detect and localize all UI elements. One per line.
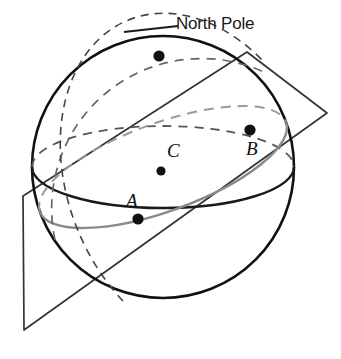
point-north-pole — [153, 50, 164, 61]
meridian-back-dashed — [52, 59, 268, 240]
diagram-canvas — [0, 0, 341, 359]
point-b-label: B — [246, 138, 258, 160]
point-b — [244, 124, 255, 135]
north-pole-label: North Pole — [176, 14, 254, 34]
plane-outline — [23, 52, 327, 330]
point-a — [132, 213, 143, 224]
sphere-diagram-figure: North Pole A B C — [0, 0, 341, 359]
point-c — [156, 166, 165, 175]
intersecting-plane — [23, 52, 327, 330]
north-pole-leader-line — [124, 26, 178, 32]
point-a-label: A — [126, 190, 138, 212]
point-c-label: C — [167, 140, 180, 162]
